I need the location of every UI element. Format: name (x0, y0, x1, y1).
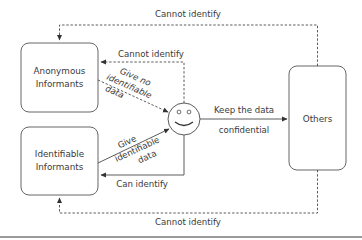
anonymous-label-line1: Anonymous (34, 66, 86, 76)
informant-diagram: Anonymous Informants Identifiable Inform… (0, 0, 362, 240)
edge-give-no-data: Give no identifiable data (98, 62, 168, 112)
anonymous-informants-box: Anonymous Informants (21, 43, 98, 112)
edge-give-data: Give identifiable data (98, 125, 169, 174)
identifiable-informants-box: Identifiable Informants (21, 127, 98, 195)
top-outer-label: Cannot identify (155, 9, 221, 19)
anonymous-label-line2: Informants (36, 79, 84, 89)
top-inner-label: Cannot identify (118, 49, 184, 59)
others-label: Others (303, 114, 333, 124)
identifiable-label-line2: Informants (36, 162, 84, 172)
identifiable-label-line1: Identifiable (35, 149, 84, 159)
smiley-face-icon (168, 103, 200, 135)
keep-label-line1: Keep the data (214, 105, 274, 115)
others-box: Others (289, 66, 346, 170)
bottom-outer-label: Cannot identify (155, 217, 221, 227)
bottom-divider (0, 236, 362, 238)
edge-keep-confidential: Keep the data confidential (200, 105, 287, 135)
can-identify-label: Can identify (116, 179, 168, 189)
keep-label-line2: confidential (219, 125, 269, 135)
